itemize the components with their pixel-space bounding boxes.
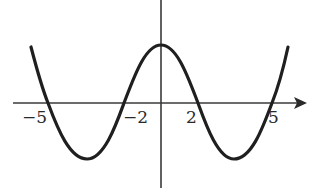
tick-label-neg5: −5: [22, 107, 47, 127]
tick-label-2: 2: [186, 107, 197, 127]
function-curve: [31, 45, 288, 159]
tick-label-neg2: −2: [123, 107, 148, 127]
function-graph: −5 −2 2 5: [0, 0, 312, 188]
tick-label-5: 5: [268, 107, 279, 127]
